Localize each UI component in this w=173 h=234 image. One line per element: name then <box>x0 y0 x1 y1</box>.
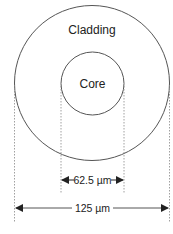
cladding-diameter-label: 125 µm <box>75 202 110 214</box>
cladding-label: Cladding <box>68 23 115 37</box>
core-label: Core <box>79 77 105 91</box>
fiber-diagram: Cladding Core 62.5 µm 125 µm <box>0 0 173 234</box>
fiber-diagram-svg: Cladding Core 62.5 µm 125 µm <box>0 0 173 234</box>
core-diameter-label: 62.5 µm <box>73 174 111 186</box>
